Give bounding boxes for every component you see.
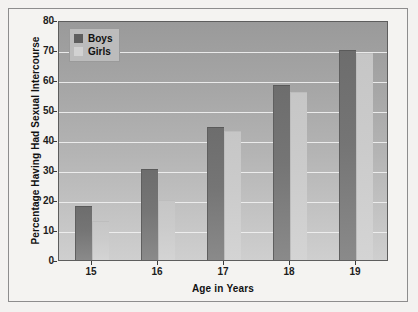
chart-legend: Boys Girls [69,28,120,62]
bar-girls-age-16 [158,200,175,260]
x-tick-label-19: 19 [335,266,375,277]
y-tick-mark [53,21,57,22]
legend-item-girls: Girls [74,45,112,58]
x-tick-mark [223,261,224,265]
y-tick-label-40: 40 [32,136,54,146]
bar-boys-age-15 [75,206,92,260]
y-tick-mark [53,261,57,262]
y-tick-mark [53,51,57,52]
x-axis-title: Age in Years [58,283,388,294]
y-tick-mark [53,81,57,82]
x-tick-label-15: 15 [71,266,111,277]
y-tick-mark [53,111,57,112]
legend-label-boys: Boys [88,33,112,44]
bar-boys-age-18 [273,85,290,261]
gridline [59,82,387,83]
bar-girls-age-17 [224,131,241,260]
chart-figure: Percentage Having Had Sexual Intercourse… [0,0,418,312]
y-tick-label-10: 10 [32,226,54,236]
legend-item-boys: Boys [74,32,112,45]
y-tick-label-60: 60 [32,76,54,86]
bar-boys-age-16 [141,169,158,261]
x-tick-label-16: 16 [137,266,177,277]
y-tick-mark [53,171,57,172]
y-tick-mark [53,141,57,142]
legend-swatch-girls-icon [74,47,83,56]
legend-swatch-boys-icon [74,34,83,43]
bar-girls-age-18 [290,92,307,260]
gridline [59,112,387,113]
bar-girls-age-15 [92,221,109,260]
y-tick-mark [53,231,57,232]
y-tick-label-30: 30 [32,166,54,176]
y-tick-label-0: 0 [32,256,54,266]
x-tick-mark [91,261,92,265]
bar-boys-age-17 [207,127,224,261]
x-tick-mark [355,261,356,265]
y-tick-label-50: 50 [32,106,54,116]
y-tick-label-20: 20 [32,196,54,206]
y-tick-mark [53,201,57,202]
x-tick-label-17: 17 [203,266,243,277]
y-tick-label-70: 70 [32,46,54,56]
y-axis-tick-labels: 01020304050607080 [30,0,54,312]
x-tick-label-18: 18 [269,266,309,277]
bar-boys-age-19 [339,50,356,260]
x-tick-mark [289,261,290,265]
legend-label-girls: Girls [88,46,111,57]
plot-area: Boys Girls [58,21,388,261]
bar-girls-age-19 [356,53,373,260]
x-tick-mark [157,261,158,265]
y-tick-label-80: 80 [32,16,54,26]
